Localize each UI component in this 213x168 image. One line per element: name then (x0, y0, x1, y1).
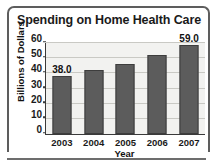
plot-area: 0102030405060 38.0200320042005200659.020… (45, 43, 205, 135)
x-tick-label-2007: 2007 (179, 137, 200, 148)
y-tick-label: 60 (31, 33, 42, 44)
bar-2003[interactable] (52, 76, 71, 134)
bar-slot: 38.02003 (46, 43, 78, 134)
y-tick-label: 50 (31, 48, 42, 59)
y-tick-label: 10 (31, 108, 42, 119)
chart-title: Spending on Home Health Care (17, 11, 202, 29)
bar-2006[interactable] (148, 55, 167, 134)
bar-slot: 59.02007 (173, 43, 205, 134)
x-tick-label-2006: 2006 (147, 137, 168, 148)
bars-group: 38.0200320042005200659.02007 (46, 43, 205, 134)
bar-2007[interactable] (180, 45, 199, 134)
bar-2005[interactable] (116, 64, 135, 134)
x-tick-label-2005: 2005 (115, 137, 136, 148)
bar-slot: 2006 (141, 43, 173, 134)
y-tick-label: 40 (31, 63, 42, 74)
x-tick-label-2003: 2003 (51, 137, 72, 148)
bar-slot: 2004 (78, 43, 110, 134)
bar-slot: 2005 (110, 43, 142, 134)
y-tick-label: 20 (31, 93, 42, 104)
y-axis-label: Billions of Dollars (15, 14, 26, 110)
x-tick-label-2004: 2004 (83, 137, 104, 148)
y-tick-label: 0 (36, 124, 42, 135)
chart-figure: Spending on Home Health Care Billions of… (0, 0, 213, 168)
y-tick-label: 30 (31, 78, 42, 89)
bar-value-label-2003: 38.0 (52, 64, 71, 75)
figure-bottom-rule (7, 158, 206, 160)
bar-value-label-2007: 59.0 (179, 33, 198, 44)
bar-2004[interactable] (84, 70, 103, 134)
